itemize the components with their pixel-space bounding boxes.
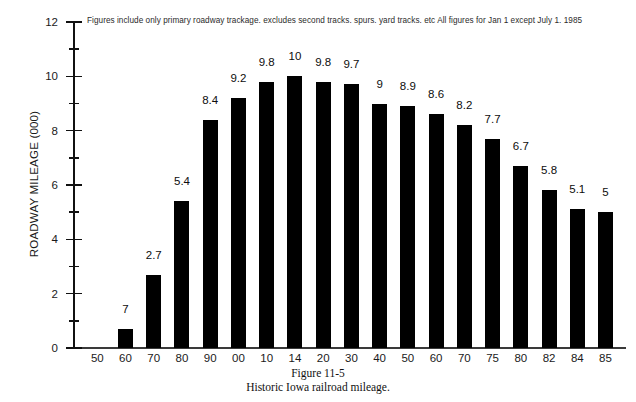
x-axis-tick-label: 50: [393, 352, 423, 364]
x-axis-tick-label: 90: [195, 352, 225, 364]
x-axis-tick-label: 80: [167, 352, 197, 364]
bar: [542, 190, 557, 348]
bar-value-label: 8.2: [447, 99, 481, 111]
bar: [344, 84, 359, 348]
bar-group: 9: [365, 22, 395, 348]
bar-value-label: 5.4: [165, 175, 199, 187]
x-axis-tick-label: 14: [280, 352, 310, 364]
figure-number: Figure 11-5: [0, 367, 636, 379]
bar-group: 5.4: [167, 22, 197, 348]
bar: [231, 98, 246, 348]
x-axis-tick-label: 82: [534, 352, 564, 364]
bar-group: 9.7: [336, 22, 366, 348]
bar-value-label: 5: [589, 186, 623, 198]
bar-group: 7: [111, 22, 141, 348]
page-bleed-artifact: [383, 394, 633, 401]
x-axis-tick-label: 40: [365, 352, 395, 364]
x-axis-tick-label: 00: [223, 352, 253, 364]
bar-group: 9.8: [308, 22, 338, 348]
bar: [598, 212, 613, 348]
y-axis-tick-label: 4: [30, 233, 58, 245]
bar-group: [82, 22, 112, 348]
y-axis-tick-label: 8: [30, 125, 58, 137]
bar-value-label: 8.4: [193, 94, 227, 106]
y-axis-tick-label: 2: [30, 288, 58, 300]
bar: [146, 275, 161, 348]
y-axis-tick-label: 10: [30, 70, 58, 82]
x-axis-tick-label: 70: [139, 352, 169, 364]
bar: [259, 82, 274, 348]
x-axis-tick-label: 80: [506, 352, 536, 364]
bar: [174, 201, 189, 348]
bar-value-label: 9.2: [221, 72, 255, 84]
bar-group: 8.4: [195, 22, 225, 348]
bar-value-label: 2.7: [137, 249, 171, 261]
x-axis-tick-label: 20: [308, 352, 338, 364]
bar: [372, 104, 387, 349]
x-axis-tick-label: 30: [336, 352, 366, 364]
bar: [118, 329, 133, 348]
figure-container: ROADWAY MILEAGE (000) Figures include on…: [0, 0, 636, 402]
bar-group: 5: [591, 22, 621, 348]
bar-value-label: 7.7: [476, 113, 510, 125]
bar: [400, 106, 415, 348]
bar-group: 10: [280, 22, 310, 348]
bar-value-label: 9.7: [334, 58, 368, 70]
y-axis-tick-label: 0: [30, 342, 58, 354]
bar: [457, 125, 472, 348]
bar-value-label: 5.8: [532, 164, 566, 176]
bar: [429, 114, 444, 348]
bar-group: 9.8: [252, 22, 282, 348]
bar-group: 8.2: [449, 22, 479, 348]
bar-group: 8.6: [421, 22, 451, 348]
x-axis-tick-label: 60: [421, 352, 451, 364]
bar-value-label: 7: [109, 303, 143, 315]
bar: [287, 76, 302, 348]
y-axis-tick-label: 6: [30, 179, 58, 191]
bar-group: 6.7: [506, 22, 536, 348]
bar-group: 7.7: [478, 22, 508, 348]
bar-group: 5.1: [562, 22, 592, 348]
bar-group: 8.9: [393, 22, 423, 348]
x-axis-tick-label: 75: [478, 352, 508, 364]
bar: [485, 139, 500, 348]
x-axis-tick-label: 84: [562, 352, 592, 364]
bar-group: 9.2: [223, 22, 253, 348]
bar: [316, 82, 331, 348]
x-axis-tick-label: 85: [591, 352, 621, 364]
bar-value-label: 6.7: [504, 140, 538, 152]
y-axis-tick-label: 12: [30, 16, 58, 28]
bar: [513, 166, 528, 348]
bar: [570, 209, 585, 348]
x-axis-tick-label: 60: [111, 352, 141, 364]
figure-caption: Historic Iowa railroad mileage.: [0, 381, 636, 393]
plot-area: 72.75.48.49.29.8109.89.798.98.68.27.76.7…: [73, 22, 625, 348]
x-axis-tick-label: 50: [82, 352, 112, 364]
x-axis-tick-label: 70: [449, 352, 479, 364]
bar: [203, 120, 218, 348]
x-axis-tick-label: 10: [252, 352, 282, 364]
